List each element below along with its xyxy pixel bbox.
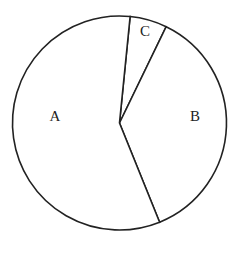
slice-label-c: C: [140, 23, 150, 39]
slice-label-a: A: [50, 108, 61, 124]
slice-label-b: B: [190, 108, 200, 124]
pie-chart: ABC: [0, 0, 240, 253]
